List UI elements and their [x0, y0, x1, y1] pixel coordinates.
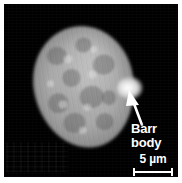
- micrograph-figure: Barr body 5 µm: [0, 0, 182, 183]
- scale-bar-label: 5 µm: [130, 153, 176, 166]
- scale-bar-line: [133, 171, 173, 173]
- scale-bar-rule: [133, 168, 173, 176]
- micrograph-field: Barr body 5 µm: [4, 4, 178, 177]
- scale-bar-cap-left: [133, 168, 135, 176]
- barr-body-label: Barr body: [131, 122, 161, 149]
- scale-bar-cap-right: [171, 168, 173, 176]
- barr-body-label-line1: Barr: [131, 122, 161, 136]
- scale-bar: 5 µm: [130, 153, 176, 176]
- barr-body-label-line2: body: [131, 136, 161, 150]
